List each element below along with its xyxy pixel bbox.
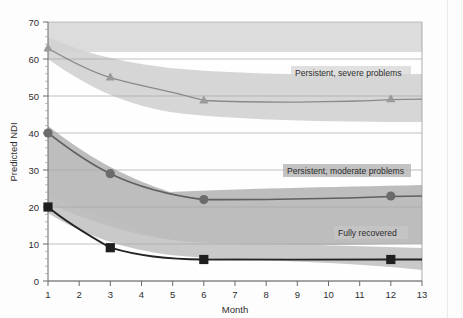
x-tick-labels: 1 2 3 4 5 6 7 8 9 10 11 12 13 bbox=[45, 289, 427, 300]
data-point-marker-square bbox=[386, 255, 395, 264]
y-tick-label: 20 bbox=[28, 202, 39, 213]
x-tick-label: 6 bbox=[201, 289, 206, 300]
x-tick-label: 2 bbox=[77, 289, 82, 300]
chart-figure: 70 60 50 40 30 20 10 0 1 2 3 4 5 6 7 8 9… bbox=[0, 0, 463, 318]
x-axis-ticks bbox=[48, 281, 422, 286]
x-tick-label: 11 bbox=[355, 289, 365, 300]
data-point-marker-square bbox=[106, 243, 115, 252]
x-tick-label: 13 bbox=[417, 289, 428, 300]
x-axis-title: Month bbox=[222, 304, 248, 315]
y-tick-label: 70 bbox=[28, 17, 39, 28]
data-point-marker-circle bbox=[199, 195, 208, 204]
data-point-marker-circle bbox=[106, 169, 115, 178]
series-label-persistent-moderate: Persistent, moderate problems bbox=[287, 166, 404, 176]
y-tick-label: 50 bbox=[28, 91, 39, 102]
x-tick-label: 12 bbox=[386, 289, 397, 300]
x-tick-label: 5 bbox=[170, 289, 175, 300]
y-axis-title: Predicted NDI bbox=[8, 122, 19, 181]
data-point-marker-circle bbox=[386, 191, 395, 200]
x-tick-label: 7 bbox=[232, 289, 237, 300]
y-tick-labels: 70 60 50 40 30 20 10 0 bbox=[28, 17, 39, 287]
data-point-marker-circle bbox=[43, 128, 52, 137]
y-tick-label: 60 bbox=[28, 54, 39, 65]
y-tick-label: 10 bbox=[28, 239, 39, 250]
severe-band-upper-block bbox=[48, 22, 422, 52]
data-point-marker-square bbox=[43, 202, 52, 211]
page-edge-divider bbox=[447, 0, 448, 318]
page-edge-margin bbox=[461, 0, 462, 318]
series-label-fully-recovered: Fully recovered bbox=[338, 228, 397, 238]
y-tick-label: 40 bbox=[28, 128, 39, 139]
x-tick-label: 8 bbox=[264, 289, 269, 300]
x-tick-label: 1 bbox=[45, 289, 50, 300]
x-tick-label: 4 bbox=[139, 289, 144, 300]
y-tick-label: 0 bbox=[34, 276, 39, 287]
y-axis-major-ticks bbox=[43, 22, 48, 281]
x-tick-label: 3 bbox=[108, 289, 113, 300]
data-point-marker-square bbox=[199, 255, 208, 264]
y-tick-label: 30 bbox=[28, 165, 39, 176]
x-tick-label: 9 bbox=[295, 289, 300, 300]
x-tick-label: 10 bbox=[323, 289, 334, 300]
predicted-ndi-line-chart: 70 60 50 40 30 20 10 0 1 2 3 4 5 6 7 8 9… bbox=[0, 0, 463, 318]
series-label-persistent-severe: Persistent, severe problems bbox=[295, 68, 402, 78]
